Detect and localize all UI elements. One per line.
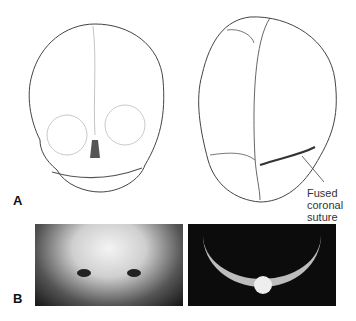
fused-coronal-suture-annotation: Fused coronal suture	[307, 187, 343, 223]
frontal-skull-drawing	[0, 0, 180, 200]
right-eye	[127, 269, 141, 277]
nose-tip	[254, 276, 272, 294]
left-eye	[77, 269, 91, 277]
face-photo	[35, 224, 183, 306]
skull-axial-photo	[188, 224, 336, 306]
panel-label-b: B	[13, 291, 22, 306]
panel-label-a: A	[13, 193, 22, 208]
annotation-leader-line	[300, 150, 330, 190]
